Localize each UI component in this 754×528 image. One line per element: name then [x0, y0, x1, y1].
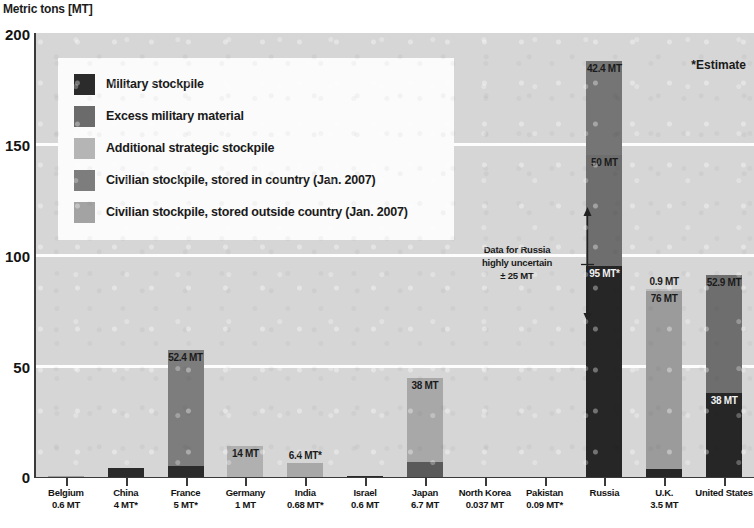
x-axis-country-name: China: [92, 487, 160, 499]
x-axis-country-value: 0.037 MT: [451, 499, 519, 511]
x-axis-label-japan: Japan6.7 MT: [391, 487, 459, 511]
russia-note-line2: highly uncertain: [458, 256, 576, 269]
bar-value-label: 38 MT: [407, 380, 443, 391]
x-axis-country-value: 1 MT: [212, 499, 280, 511]
x-axis-country-name: France: [152, 487, 220, 499]
x-axis-country-name: Israel: [331, 487, 399, 499]
bar-value-label: 0.9 MT: [630, 276, 698, 287]
russia-note-line3: ± 25 MT: [458, 269, 576, 282]
bar-china: [108, 468, 144, 477]
bar-value-label: 50 MT: [586, 157, 622, 168]
legend-swatch-excess-military-material: [74, 106, 95, 127]
chart-axis-title: Metric tons [MT]: [3, 2, 92, 16]
bar-segment: 52.4 MT: [168, 350, 204, 466]
legend-label-excess-military-material: Excess military material: [106, 109, 244, 123]
legend-swatch-civilian-stockpile-in-country: [74, 170, 95, 191]
bar-segment: 38 MT: [407, 378, 443, 462]
x-tick: [724, 477, 726, 486]
bar-segment: [48, 476, 84, 477]
russia-note-line1: Data for Russia: [458, 243, 576, 256]
legend-label-additional-strategic-stockpile: Additional strategic stockpile: [106, 141, 274, 155]
legend-swatch-military-stockpile: [74, 74, 95, 95]
y-tick-label-0: 0: [0, 469, 30, 486]
x-axis-country-name: U.K.: [630, 487, 698, 499]
russia-uncertainty-note: Data for Russia highly uncertain ± 25 MT: [458, 243, 576, 282]
x-tick: [305, 477, 307, 486]
bar-segment: [108, 468, 144, 477]
legend-swatch-civilian-stockpile-outside-country: [74, 202, 95, 223]
bar-value-label: 38 MT: [706, 395, 742, 406]
x-axis-country-value: 0.09 MT*: [511, 499, 579, 511]
bar-segment: 42.4 MT: [586, 61, 622, 155]
x-axis-label-china: China4 MT*: [92, 487, 160, 511]
x-axis-label-france: France5 MT*: [152, 487, 220, 511]
bar-segment: 6.4 MT*: [287, 463, 323, 477]
uncertainty-arrow-icon: [581, 207, 594, 322]
bar-value-label: 52.9 MT: [706, 277, 742, 288]
x-tick: [425, 477, 427, 486]
x-axis-label-north-korea: North Korea0.037 MT: [451, 487, 519, 511]
bar-segment: [407, 462, 443, 477]
x-axis-label-israel: Israel0.6 MT: [331, 487, 399, 511]
x-axis-label-pakistan: Pakistan0.09 MT*: [511, 487, 579, 511]
x-axis-country-value: 3.5 MT: [630, 499, 698, 511]
bar-value-label: 52.4 MT: [168, 352, 204, 363]
legend-label-civilian-stockpile-outside-country: Civilian stockpile, stored outside count…: [106, 205, 408, 219]
legend-item-civilian-stockpile-outside-country: Civilian stockpile, stored outside count…: [74, 196, 454, 228]
bar-segment: [347, 476, 383, 477]
bar-segment: [168, 466, 204, 477]
x-tick: [545, 477, 547, 486]
x-axis-country-value: 0.6 MT: [331, 499, 399, 511]
bar-japan: 38 MT: [407, 378, 443, 477]
x-axis-country-name: Germany: [212, 487, 280, 499]
x-axis-label-india: India0.68 MT*: [271, 487, 339, 511]
bar-segment: 76 MT: [646, 291, 682, 460]
x-axis-country-value: 6.7 MT: [391, 499, 459, 511]
x-axis-label-u-k-: U.K.3.5 MT: [630, 487, 698, 511]
legend-label-military-stockpile: Military stockpile: [106, 77, 204, 91]
x-axis-country-name: United States: [690, 487, 754, 499]
x-axis-country-name: Japan: [391, 487, 459, 499]
legend-label-civilian-stockpile-in-country: Civilian stockpile, stored in country (J…: [106, 173, 375, 187]
x-axis-country-value: 0.68 MT*: [271, 499, 339, 511]
estimate-note: *Estimate: [691, 58, 746, 72]
legend-item-excess-military-material: Excess military material: [74, 100, 454, 132]
legend-swatch-additional-strategic-stockpile: [74, 138, 95, 159]
bar-value-label: 42.4 MT: [586, 63, 622, 74]
x-tick: [245, 477, 247, 486]
bar-germany: 14 MT: [227, 446, 263, 477]
bar-u-k-: 4.4 MT76 MT0.9 MT: [646, 289, 682, 477]
x-tick: [365, 477, 367, 486]
bar-segment: 38 MT: [706, 393, 742, 477]
legend-item-civilian-stockpile-in-country: Civilian stockpile, stored in country (J…: [74, 164, 454, 196]
legend-item-additional-strategic-stockpile: Additional strategic stockpile: [74, 132, 454, 164]
y-tick-label-100: 100: [0, 248, 30, 265]
x-axis-country-value: 0.6 MT: [32, 499, 100, 511]
x-axis-country-name: India: [271, 487, 339, 499]
x-axis-label-belgium: Belgium0.6 MT: [32, 487, 100, 511]
x-tick: [664, 477, 666, 486]
x-axis-label-russia: Russia: [571, 487, 639, 499]
bar-segment: 4.4 MT: [646, 459, 682, 469]
x-axis-label-germany: Germany1 MT: [212, 487, 280, 511]
bar-belgium: [48, 476, 84, 477]
x-axis-country-value: 4 MT*: [92, 499, 160, 511]
chart-root: Metric tons [MT] 200 150 100 50 0 52.4 M…: [0, 0, 754, 528]
x-tick: [604, 477, 606, 486]
bar-united-states: 38 MT52.9 MT: [706, 275, 742, 477]
y-tick-label-50: 50: [0, 359, 30, 376]
x-axis-country-name: Belgium: [32, 487, 100, 499]
x-tick: [66, 477, 68, 486]
bar-france: 52.4 MT: [168, 350, 204, 477]
x-tick: [126, 477, 128, 486]
y-tick-label-150: 150: [0, 137, 30, 154]
x-axis-country-name: Pakistan: [511, 487, 579, 499]
gridline-100: [36, 254, 754, 257]
bar-india: 6.4 MT*: [287, 463, 323, 477]
y-tick-label-200: 200: [0, 26, 30, 43]
bar-value-label: 6.4 MT*: [271, 450, 339, 461]
bar-value-label: 14 MT: [227, 448, 263, 459]
chart-legend: Military stockpile Excess military mater…: [58, 58, 454, 240]
x-axis-country-name: North Korea: [451, 487, 519, 499]
bar-segment: 14 MT: [227, 446, 263, 477]
